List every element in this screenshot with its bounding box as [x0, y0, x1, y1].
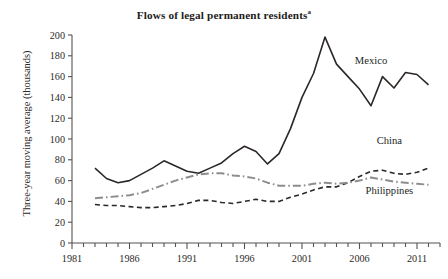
y-axis-tick-label: 100 [50, 134, 65, 145]
y-axis-tick-label: 40 [55, 196, 65, 207]
y-axis-tick-label: 180 [50, 50, 65, 61]
x-axis-tick-label: 2001 [292, 253, 312, 264]
x-axis-tick-label: 1996 [234, 253, 254, 264]
y-axis-tick-label: 200 [50, 30, 65, 41]
y-axis-tick-label: 0 [60, 238, 65, 249]
chart-plot-area: 0204060801001201401601802001981198619911… [0, 0, 448, 279]
x-axis-tick-label: 2011 [407, 253, 427, 264]
y-axis-tick-label: 120 [50, 113, 65, 124]
x-axis-tick-label: 1991 [177, 253, 197, 264]
series-label-china: China [377, 135, 403, 146]
y-axis-tick-label: 60 [55, 175, 65, 186]
series-label-philippines: Philippines [366, 185, 414, 196]
y-axis-tick-label: 140 [50, 92, 65, 103]
chart-series-labels: MexicoChinaPhilippines [355, 55, 413, 196]
chart-figure: Flows of legal permanent residentsa Thre… [0, 0, 448, 279]
series-label-mexico: Mexico [355, 55, 387, 66]
x-axis-tick-label: 2006 [349, 253, 369, 264]
y-axis-tick-label: 20 [55, 217, 65, 228]
x-axis-tick-label: 1981 [62, 253, 82, 264]
x-axis-tick-label: 1986 [119, 253, 139, 264]
y-axis-tick-label: 80 [55, 154, 65, 165]
y-axis-tick-label: 160 [50, 71, 65, 82]
